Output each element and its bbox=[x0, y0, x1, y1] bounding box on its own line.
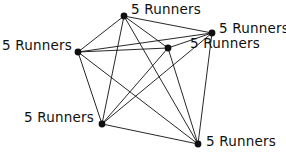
node-label: 5 Runners bbox=[206, 134, 276, 149]
node-label: 5 Runners bbox=[24, 110, 94, 125]
graph-figure: 5 Runners5 Runners5 Runners5 Runners5 Ru… bbox=[0, 0, 286, 155]
graph-edge bbox=[168, 48, 198, 144]
node-label: 5 Runners bbox=[131, 2, 201, 17]
graph-edge bbox=[102, 124, 198, 144]
graph-edge bbox=[102, 48, 168, 124]
graph-edge bbox=[124, 16, 168, 48]
graph-node bbox=[195, 141, 202, 148]
node-label: 5 Runners bbox=[2, 38, 72, 53]
graph-edge bbox=[102, 16, 124, 124]
node-label: 5 Runners bbox=[190, 36, 260, 51]
node-layer bbox=[75, 13, 216, 148]
graph-edge bbox=[124, 16, 198, 144]
node-label: 5 Runners bbox=[219, 21, 286, 36]
graph-node bbox=[121, 13, 128, 20]
graph-node bbox=[165, 45, 172, 52]
graph-edge bbox=[124, 16, 212, 33]
graph-node bbox=[75, 49, 82, 56]
graph-edge bbox=[78, 52, 198, 144]
graph-node bbox=[99, 121, 106, 128]
